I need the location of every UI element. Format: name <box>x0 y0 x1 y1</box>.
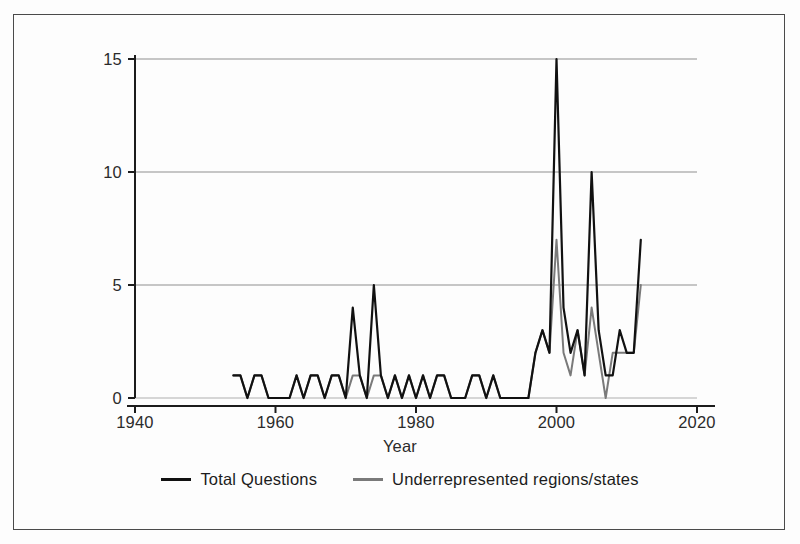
y-tick-label: 10 <box>78 163 122 182</box>
y-tick-label: 0 <box>78 389 122 408</box>
y-tick-label: 15 <box>78 50 122 69</box>
chart-figure: 051015 19401960198020002020 Year Total Q… <box>0 0 800 544</box>
x-tick-label: 2000 <box>538 413 576 432</box>
line-chart-plot <box>0 0 800 544</box>
y-tick-label: 5 <box>78 276 122 295</box>
legend-entry: Total Questions <box>161 470 317 489</box>
legend-entry: Underrepresented regions/states <box>353 470 639 489</box>
x-axis-title: Year <box>0 437 800 456</box>
legend-label: Total Questions <box>200 470 317 489</box>
legend-swatch <box>161 478 191 481</box>
series-line <box>233 240 640 398</box>
legend-swatch <box>353 478 383 481</box>
series-line <box>233 59 640 398</box>
x-tick-label: 2020 <box>678 413 716 432</box>
x-tick-label: 1980 <box>397 413 435 432</box>
x-tick-label: 1960 <box>257 413 295 432</box>
legend-label: Underrepresented regions/states <box>392 470 639 489</box>
x-tick-label: 1940 <box>116 413 154 432</box>
chart-legend: Total QuestionsUnderrepresented regions/… <box>0 470 800 489</box>
